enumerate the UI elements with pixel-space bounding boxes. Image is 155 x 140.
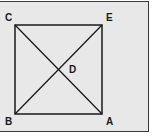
square-diagram (0, 0, 155, 140)
label-c: C (5, 13, 12, 23)
label-e: E (106, 13, 113, 23)
label-d: D (69, 65, 76, 75)
label-b: B (5, 117, 12, 127)
label-a: A (106, 117, 113, 127)
